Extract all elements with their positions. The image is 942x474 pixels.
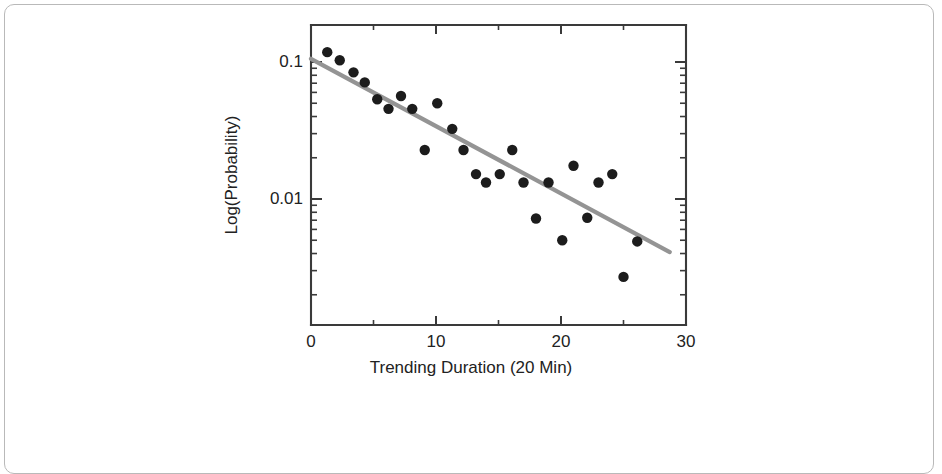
- x-tick-label: 30: [677, 332, 696, 352]
- data-point: [481, 177, 491, 187]
- x-tick-label: 10: [427, 332, 446, 352]
- data-point: [471, 169, 481, 179]
- data-point: [568, 161, 578, 171]
- data-points-group: [322, 47, 642, 282]
- data-point: [582, 213, 592, 223]
- data-point: [518, 177, 528, 187]
- data-point: [618, 272, 628, 282]
- data-point: [322, 47, 332, 57]
- data-point: [495, 169, 505, 179]
- fit-line-group: [311, 59, 670, 252]
- y-axis-title: Log(Probability): [222, 115, 242, 234]
- data-point: [372, 94, 382, 104]
- data-point: [447, 124, 457, 134]
- data-point: [531, 213, 541, 223]
- y-tick-label: 0.01: [251, 189, 303, 209]
- x-tick-label: 0: [306, 332, 315, 352]
- y-tick-label: 0.1: [251, 52, 303, 72]
- data-point: [557, 235, 567, 245]
- data-point: [383, 104, 393, 114]
- data-point: [543, 177, 553, 187]
- data-point: [407, 104, 417, 114]
- data-point: [348, 67, 358, 77]
- x-tick-label: 20: [552, 332, 571, 352]
- x-axis-title: Trending Duration (20 Min): [0, 358, 942, 378]
- data-point: [593, 177, 603, 187]
- data-point: [607, 169, 617, 179]
- fit-line: [311, 59, 670, 252]
- data-point: [396, 91, 406, 101]
- data-point: [632, 236, 642, 246]
- data-point: [420, 145, 430, 155]
- data-point: [432, 98, 442, 108]
- data-point: [335, 55, 345, 65]
- data-point: [360, 77, 370, 87]
- data-point: [507, 145, 517, 155]
- data-point: [458, 145, 468, 155]
